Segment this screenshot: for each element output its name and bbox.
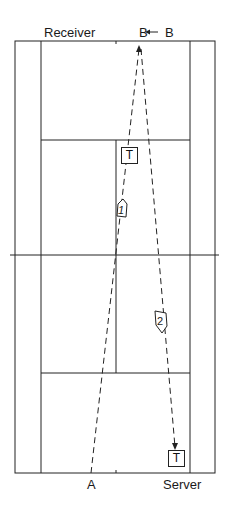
- receiver-label: Receiver: [44, 26, 95, 40]
- b-from-label: B: [139, 26, 148, 40]
- shot-path-1: [91, 49, 139, 473]
- server-label: Server: [163, 478, 201, 492]
- shot1-number: 1: [118, 203, 124, 217]
- b-to-label: B: [165, 26, 174, 40]
- a-label: A: [87, 478, 96, 492]
- shot-path-2: [141, 49, 175, 447]
- arrowhead-top-icon: [136, 45, 142, 52]
- target-top-box: T: [121, 147, 138, 164]
- target-bottom-box: T: [168, 450, 185, 467]
- tennis-court-diagram: [0, 0, 227, 517]
- court-outline: [15, 41, 215, 473]
- arrowhead-bottom-icon: [172, 443, 178, 450]
- shot2-number: 2: [157, 314, 163, 328]
